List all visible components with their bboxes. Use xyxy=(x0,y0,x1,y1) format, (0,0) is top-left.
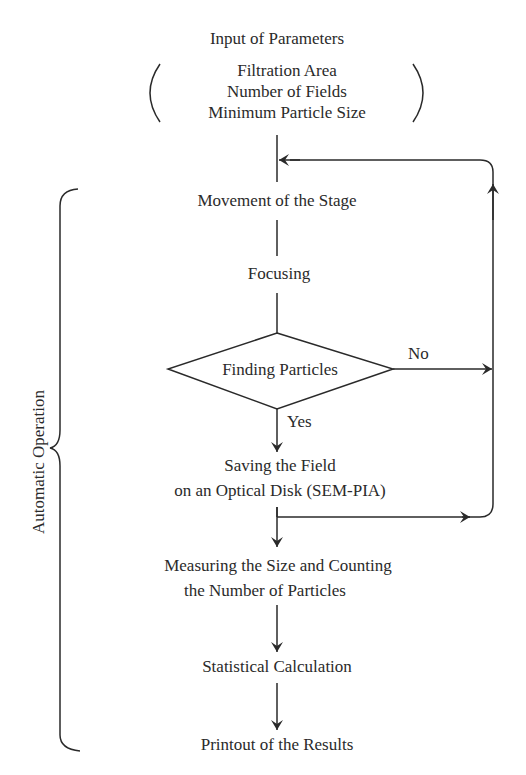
step-movement-of-stage: Movement of the Stage xyxy=(197,190,356,212)
step-saving-line2: on an Optical Disk (SEM-PIA) xyxy=(174,480,386,502)
step-focusing: Focusing xyxy=(248,263,310,285)
step-saving-line1: Saving the Field xyxy=(224,455,335,477)
branch-label-no: No xyxy=(408,343,429,365)
branch-label-yes: Yes xyxy=(287,411,312,433)
automatic-operation-brace xyxy=(50,189,80,751)
step-measuring-line2: the Number of Particles xyxy=(184,580,346,602)
left-paren xyxy=(150,64,160,122)
step-statistical-calculation: Statistical Calculation xyxy=(202,656,352,678)
param-number-of-fields: Number of Fields xyxy=(227,81,347,103)
step-printout-results: Printout of the Results xyxy=(201,734,354,756)
param-filtration-area: Filtration Area xyxy=(237,60,337,82)
bracket-label-automatic-operation: Automatic Operation xyxy=(29,390,49,534)
param-minimum-particle-size: Minimum Particle Size xyxy=(208,102,366,124)
step-measuring-line1: Measuring the Size and Counting xyxy=(164,555,392,577)
step-input-of-parameters: Input of Parameters xyxy=(210,28,344,50)
right-paren xyxy=(413,64,423,122)
decision-finding-particles: Finding Particles xyxy=(222,359,338,381)
